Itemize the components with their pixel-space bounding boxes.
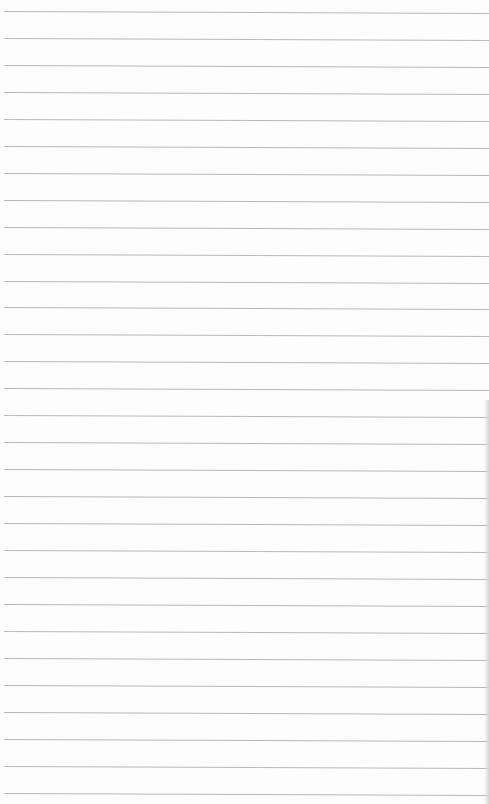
- ruled-line: [4, 604, 489, 607]
- ruled-line: [4, 388, 489, 391]
- page-edge-shadow: [484, 400, 489, 804]
- ruled-line: [4, 793, 489, 796]
- ruled-line: [4, 38, 489, 41]
- ruled-line: [4, 712, 489, 715]
- ruled-line: [4, 577, 489, 580]
- ruled-line: [4, 361, 489, 364]
- ruled-line: [4, 119, 489, 122]
- ruled-line: [4, 11, 489, 14]
- lined-paper-sheet: [0, 0, 489, 804]
- ruled-lines: [0, 0, 489, 804]
- ruled-line: [4, 65, 489, 68]
- ruled-line: [4, 496, 489, 499]
- ruled-line: [4, 415, 489, 418]
- ruled-line: [4, 739, 489, 742]
- ruled-line: [4, 334, 489, 337]
- ruled-line: [4, 254, 489, 257]
- ruled-line: [4, 146, 489, 149]
- ruled-line: [4, 200, 489, 203]
- ruled-line: [4, 658, 489, 661]
- ruled-line: [4, 92, 489, 95]
- ruled-line: [4, 307, 489, 310]
- ruled-line: [4, 685, 489, 688]
- ruled-line: [4, 550, 489, 553]
- ruled-line: [4, 469, 489, 472]
- ruled-line: [4, 227, 489, 230]
- ruled-line: [4, 523, 489, 526]
- ruled-line: [4, 281, 489, 284]
- ruled-line: [4, 631, 489, 634]
- ruled-line: [4, 766, 489, 769]
- ruled-line: [4, 442, 489, 445]
- ruled-line: [4, 173, 489, 176]
